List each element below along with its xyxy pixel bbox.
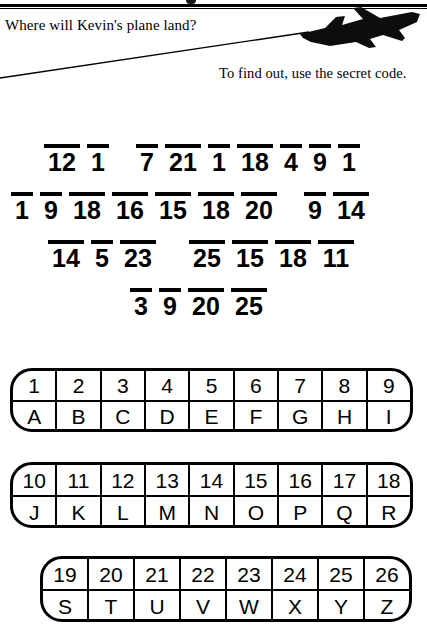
code-blank: 20: [188, 288, 224, 320]
key-letter-cell: N: [190, 497, 234, 527]
key-number-cell: 10: [13, 465, 57, 495]
key-letter-cell: X: [273, 591, 319, 621]
code-blank: 1: [338, 144, 360, 176]
key-number-cell: 25: [319, 559, 365, 589]
code-row: 392025: [0, 272, 427, 320]
code-blank: 9: [159, 288, 181, 320]
key-number-cell: 12: [102, 465, 146, 495]
code-blank: 15: [232, 240, 268, 272]
airplane-silhouette-icon: [300, 7, 420, 48]
key-number-cell: 8: [323, 371, 367, 400]
key-letter-cell: Q: [323, 497, 367, 527]
key-letter-cell: K: [57, 497, 101, 527]
code-blank: 18: [275, 240, 311, 272]
key-letter-cell: G: [279, 402, 323, 431]
key-letter-cell: T: [89, 591, 135, 621]
code-blank: 16: [112, 192, 148, 224]
key-letter-cell: F: [235, 402, 279, 431]
code-key-table: 101112131415161718JKLMNOPQR: [10, 462, 413, 528]
key-letter-cell: C: [102, 402, 146, 431]
key-number-cell: 23: [227, 559, 273, 589]
key-letter-cell: J: [13, 497, 57, 527]
header-rule-thin: [0, 8, 427, 9]
code-blank: 11: [318, 240, 354, 272]
page-title: Where will Kevin's plane land?: [5, 17, 196, 34]
key-table-letter-row: JKLMNOPQR: [13, 497, 410, 527]
code-blank: 18: [237, 144, 273, 176]
code-blank: 1: [87, 144, 109, 176]
code-blank: 5: [91, 240, 113, 272]
key-number-cell: 24: [273, 559, 319, 589]
key-number-cell: 13: [146, 465, 190, 495]
key-number-cell: 6: [235, 371, 279, 400]
key-number-cell: 26: [365, 559, 409, 589]
key-letter-cell: E: [190, 402, 234, 431]
key-number-cell: 19: [43, 559, 89, 589]
key-number-cell: 11: [57, 465, 101, 495]
key-letter-cell: Y: [319, 591, 365, 621]
key-table-letter-row: STUVWXYZ: [43, 591, 409, 621]
key-letter-cell: B: [57, 402, 101, 431]
code-blank: 25: [189, 240, 225, 272]
key-letter-cell: Z: [365, 591, 409, 621]
code-blank: 15: [155, 192, 191, 224]
code-blank: 3: [130, 288, 152, 320]
key-number-cell: 9: [368, 371, 410, 400]
key-letter-cell: L: [102, 497, 146, 527]
code-blank: 1: [208, 144, 230, 176]
key-number-cell: 14: [190, 465, 234, 495]
key-letter-cell: A: [13, 402, 57, 431]
key-number-cell: 4: [146, 371, 190, 400]
code-blank: 21: [165, 144, 201, 176]
key-letter-cell: O: [235, 497, 279, 527]
code-blank: 18: [69, 192, 105, 224]
key-number-cell: 21: [135, 559, 181, 589]
key-number-cell: 7: [279, 371, 323, 400]
code-blank: 23: [120, 240, 156, 272]
key-number-cell: 18: [368, 465, 410, 495]
key-number-cell: 1: [13, 371, 57, 400]
key-table-number-row: 101112131415161718: [13, 465, 410, 497]
code-blank: 20: [241, 192, 277, 224]
key-letter-cell: V: [181, 591, 227, 621]
key-letter-cell: W: [227, 591, 273, 621]
code-blank: 25: [231, 288, 267, 320]
key-letter-cell: I: [368, 402, 410, 431]
key-number-cell: 17: [323, 465, 367, 495]
key-letter-cell: M: [146, 497, 190, 527]
code-blank: 14: [48, 240, 84, 272]
code-blank: 9: [304, 192, 326, 224]
key-number-cell: 15: [235, 465, 279, 495]
code-blank: 4: [280, 144, 302, 176]
key-letter-cell: H: [323, 402, 367, 431]
key-letter-cell: U: [135, 591, 181, 621]
code-blank: 7: [136, 144, 158, 176]
code-key-table: 1920212223242526STUVWXYZ: [40, 556, 412, 622]
code-blank: 12: [44, 144, 80, 176]
key-number-cell: 2: [57, 371, 101, 400]
code-blank: 14: [333, 192, 369, 224]
key-table-number-row: 1920212223242526: [43, 559, 409, 591]
code-row: 1452325151811: [0, 224, 427, 272]
code-row: 121721118491: [0, 128, 427, 176]
key-number-cell: 3: [102, 371, 146, 400]
code-key-table: 123456789ABCDEFGHI: [10, 368, 413, 432]
key-number-cell: 20: [89, 559, 135, 589]
code-blank: 9: [309, 144, 331, 176]
key-letter-cell: D: [146, 402, 190, 431]
instruction-text: To find out, use the secret code.: [219, 65, 407, 82]
code-blank: 18: [198, 192, 234, 224]
secret-code-answer-area: 121721118491 191816151820914 14523251518…: [0, 128, 427, 320]
key-number-cell: 22: [181, 559, 227, 589]
key-letter-cell: P: [279, 497, 323, 527]
key-letter-cell: S: [43, 591, 89, 621]
key-number-cell: 5: [190, 371, 234, 400]
key-table-letter-row: ABCDEFGHI: [13, 402, 410, 431]
key-table-number-row: 123456789: [13, 371, 410, 402]
header-rule-thick: [0, 4, 427, 7]
key-number-cell: 16: [279, 465, 323, 495]
code-blank: 1: [11, 192, 33, 224]
code-blank: 9: [40, 192, 62, 224]
code-row: 191816151820914: [0, 176, 427, 224]
key-letter-cell: R: [368, 497, 410, 527]
